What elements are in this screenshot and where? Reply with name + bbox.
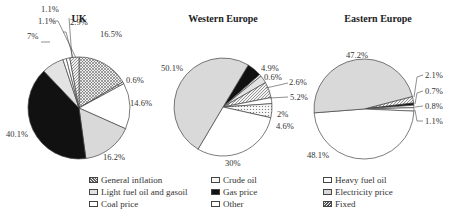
legend-label: Electricity price — [335, 187, 393, 197]
legend-item-heavy-fuel-oil: Heavy fuel oil — [323, 175, 386, 185]
legend-label: Light fuel oil and gasoil — [101, 187, 187, 197]
label-uk-other: 1.1% — [41, 4, 59, 14]
label-uk-gas: 40.1% — [6, 129, 28, 139]
legend-item-other: Other — [211, 199, 244, 209]
legend-item-gas-price: Gas price — [211, 187, 257, 197]
legend-label: Gas price — [223, 187, 257, 197]
chart-western-europe: Western Europe 50.1% 4.9% 0.6% 2.6% 5.2%… — [161, 13, 308, 168]
dots-swatch-icon — [211, 177, 220, 183]
label-ee-heavy-fuel: 48.1% — [307, 150, 329, 160]
lightgrey-swatch-icon — [89, 189, 98, 195]
legend: General inflation Light fuel oil and gas… — [0, 173, 454, 223]
label-ee-coal: 1.1% — [425, 116, 443, 126]
white-swatch-icon — [211, 201, 220, 207]
label-we-light-fuel: 2.6% — [289, 77, 307, 87]
legend-item-fixed: Fixed — [323, 199, 356, 209]
pie-western-europe — [174, 58, 272, 156]
legend-label: Other — [223, 199, 244, 209]
chart-eastern-europe: Eastern Europe 47.2% 2.1% 0.7% 0.8% 1.1%… — [307, 13, 443, 160]
label-uk-crude: 0.6% — [126, 75, 144, 85]
pie-slice — [314, 109, 414, 159]
label-ee-fixed: 2.1% — [425, 70, 443, 80]
black-swatch-icon — [211, 189, 220, 195]
pie-eastern-europe — [314, 59, 414, 159]
label-uk-fixed: 2.9% — [70, 17, 88, 27]
label-ee-gas: 0.7% — [425, 86, 443, 96]
legend-item-light-fuel-oil: Light fuel oil and gasoil — [89, 187, 187, 197]
chart-title-eastern-europe: Eastern Europe — [344, 13, 412, 24]
label-ee-electricity: 47.2% — [346, 50, 368, 60]
label-uk-electricity: 16.2% — [103, 152, 125, 162]
pie-charts: UK 1.1% 1.1% 2.9% 16.5% 7% 0.6% 14.6% 40… — [0, 0, 454, 175]
crosshatch-swatch-icon — [89, 177, 98, 183]
legend-label: Fixed — [335, 199, 356, 209]
legend-item-crude-oil: Crude oil — [211, 175, 257, 185]
label-uk-general-inflation: 16.5% — [100, 29, 122, 39]
label-we-heavy-fuel: 30% — [225, 158, 241, 168]
label-we-crude: 4.6% — [276, 121, 294, 131]
legend-label: Coal price — [101, 199, 138, 209]
grey-swatch-icon — [323, 189, 332, 195]
label-uk-light-fuel: 7% — [27, 31, 38, 41]
label-we-fixed: 5.2% — [290, 92, 308, 102]
legend-item-electricity-price: Electricity price — [323, 187, 393, 197]
label-we-coal: 2% — [277, 109, 288, 119]
legend-label: General inflation — [101, 175, 162, 185]
legend-item-general-inflation: General inflation — [89, 175, 162, 185]
pie-uk — [28, 57, 130, 159]
label-ee-other: 0.8% — [425, 101, 443, 111]
white-swatch-icon — [89, 201, 98, 207]
chart-uk: UK 1.1% 1.1% 2.9% 16.5% 7% 0.6% 14.6% 40… — [6, 4, 152, 162]
legend-item-coal-price: Coal price — [89, 199, 138, 209]
legend-label: Crude oil — [223, 175, 257, 185]
hatch-swatch-icon — [323, 201, 332, 207]
legend-label: Heavy fuel oil — [335, 175, 386, 185]
white-swatch-icon — [323, 177, 332, 183]
chart-title-western-europe: Western Europe — [188, 13, 258, 24]
label-we-other: 0.6% — [264, 72, 282, 82]
label-we-electricity: 50.1% — [161, 63, 183, 73]
label-uk-heavy-fuel: 14.6% — [130, 98, 152, 108]
